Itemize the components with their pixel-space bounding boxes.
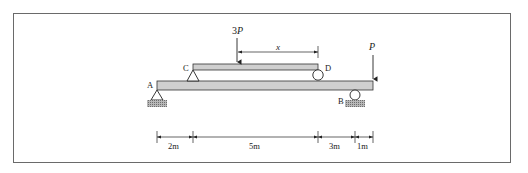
roller-support-d-icon [313,70,323,80]
ground-hatch-a [147,100,167,107]
dimension-1m-label: 1m [357,141,368,151]
dimension-5m-label: 5m [249,141,260,151]
point-c-label: C [183,63,189,73]
beam-diagram: 3P P x C D A B 2m 5m 3m 1m [0,0,528,173]
point-a-label: A [147,80,154,90]
point-b-label: B [338,96,344,106]
roller-support-b-icon [345,90,365,107]
load-p-label: P [368,41,375,52]
dimension-3m-label: 3m [329,141,340,151]
pin-support-c-icon [187,70,199,81]
upper-beam [193,64,318,70]
load-3p-label: 3P [232,25,243,36]
dimension-x-label: x [275,42,280,52]
main-beam [157,81,373,90]
dimension-2m-label: 2m [168,141,179,151]
pin-support-a-icon [147,90,167,107]
dimension-line-bottom [157,131,373,143]
point-d-label: D [325,63,331,73]
ground-hatch-b [345,100,365,107]
